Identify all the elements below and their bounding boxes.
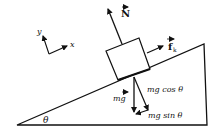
weight-perpendicular-arrow — [134, 77, 148, 110]
axis-y-label: y — [36, 27, 42, 36]
block — [106, 38, 150, 80]
weight-parallel-label: mg sin θ — [148, 111, 183, 120]
normal-force-arrow — [108, 9, 122, 44]
axes-indicator: y x — [36, 27, 75, 54]
angle-label: θ — [43, 115, 49, 125]
svg-text:N: N — [121, 8, 130, 19]
weight-perpendicular-label: mg cos θ — [147, 85, 183, 94]
friction-arrow — [147, 46, 163, 53]
svg-text:mg: mg — [113, 94, 126, 103]
svg-text:k: k — [173, 46, 177, 53]
weight-parallel-arrow — [136, 110, 148, 114]
normal-force-label: N — [121, 7, 130, 19]
incline-diagram: θ N f k y x mg mg cos θ mg sin θ — [0, 0, 216, 131]
axis-x-label: x — [70, 40, 75, 49]
weight-label: mg — [113, 92, 128, 103]
friction-label: f k — [167, 39, 177, 53]
